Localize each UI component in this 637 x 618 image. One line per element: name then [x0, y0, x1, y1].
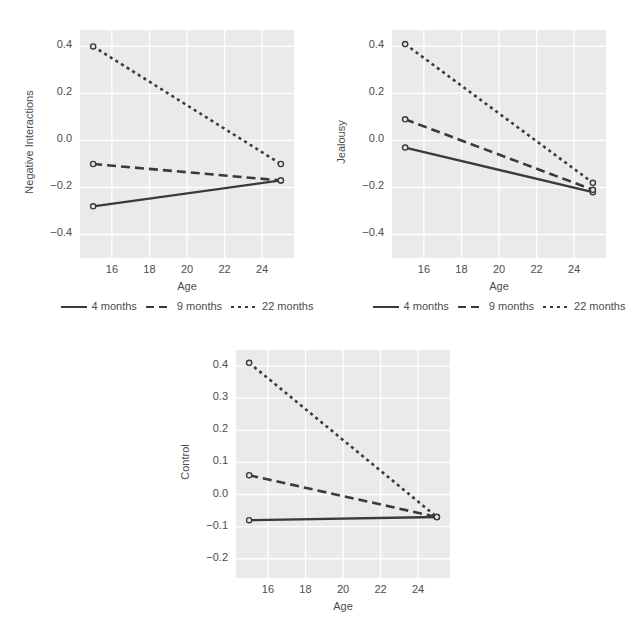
data-point-marker — [434, 514, 439, 519]
x-axis-tick-label: 24 — [398, 583, 438, 595]
data-point-marker — [247, 360, 252, 365]
y-axis-title: Control — [179, 348, 191, 576]
x-axis-tick-label: 18 — [285, 583, 325, 595]
data-point-marker — [247, 473, 252, 478]
x-axis-tick-label: 16 — [248, 583, 288, 595]
x-axis-tick-label: 20 — [323, 583, 363, 595]
plot-canvas-3 — [0, 0, 637, 618]
data-point-marker — [247, 518, 252, 523]
x-axis-tick-label: 22 — [361, 583, 401, 595]
series-line-4-months — [249, 517, 437, 520]
x-axis-title: Age — [236, 600, 450, 612]
